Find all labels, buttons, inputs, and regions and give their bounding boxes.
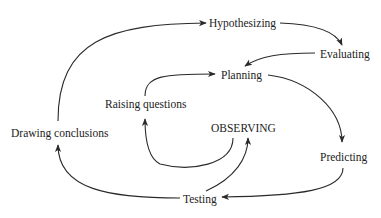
node-testing: Testing: [183, 193, 217, 206]
edge-testing-to-drawing-conclusions: [58, 145, 180, 198]
edge-hypothesizing-to-evaluating: [280, 23, 342, 45]
edge-evaluating-to-planning: [245, 53, 315, 66]
edge-planning-to-predicting: [268, 75, 342, 142]
node-planning: Planning: [221, 69, 262, 82]
node-drawing-conclusions: Drawing conclusions: [11, 127, 109, 140]
node-evaluating: Evaluating: [320, 48, 370, 61]
edge-raising-questions-to-planning: [145, 74, 215, 96]
science-process-diagram: Hypothesizing Evaluating Planning Raisin…: [0, 0, 381, 218]
edge-predicting-to-testing: [222, 168, 343, 197]
node-raising-questions: Raising questions: [105, 98, 187, 111]
node-hypothesizing: Hypothesizing: [209, 17, 276, 30]
edge-testing-to-observing: [206, 138, 248, 191]
node-predicting: Predicting: [320, 151, 368, 164]
node-observing: OBSERVING: [211, 122, 276, 134]
